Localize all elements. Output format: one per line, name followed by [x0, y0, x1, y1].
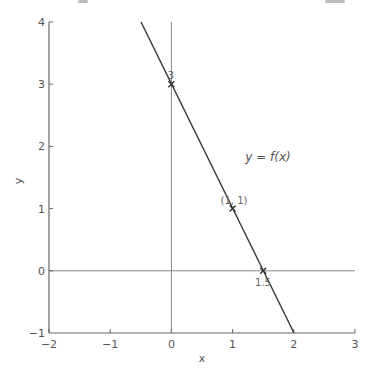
reference-lines [49, 22, 355, 333]
svg-text:2: 2 [38, 140, 45, 153]
svg-text:−1: −1 [102, 338, 118, 351]
y-tick-labels: −1 0 1 2 3 4 [29, 16, 45, 340]
svg-text:−1: −1 [29, 327, 45, 340]
svg-text:3: 3 [38, 78, 45, 91]
svg-text:1: 1 [38, 203, 45, 216]
svg-text:4: 4 [38, 16, 45, 29]
chart: −2 −1 0 1 2 3 −1 0 1 2 3 4 x y 3 (1, 1) … [0, 0, 376, 382]
x-tick-labels: −2 −1 0 1 2 3 [41, 338, 359, 351]
axes [49, 22, 355, 333]
point-label-1-1: (1, 1) [221, 195, 248, 206]
svg-text:0: 0 [38, 265, 45, 278]
svg-text:0: 0 [168, 338, 175, 351]
point-label-root: 1.5 [255, 277, 271, 288]
point-label-intercept: 3 [168, 70, 174, 81]
x-axis-label: x [199, 352, 206, 365]
svg-text:2: 2 [290, 338, 297, 351]
y-axis-label: y [12, 177, 25, 184]
function-annotation: y = f(x) [244, 150, 290, 164]
svg-text:1: 1 [229, 338, 236, 351]
marker-x-icon [230, 206, 236, 212]
clipped-title [78, 0, 345, 3]
function-line [141, 22, 294, 333]
svg-text:3: 3 [352, 338, 359, 351]
